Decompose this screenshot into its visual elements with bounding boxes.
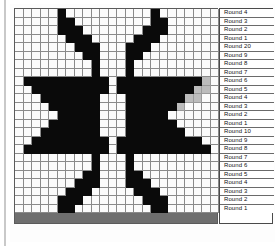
stitch-cell bbox=[126, 128, 135, 137]
stitch-cell bbox=[202, 188, 211, 197]
stitch-cell bbox=[194, 18, 203, 27]
stitch-cell bbox=[143, 111, 152, 120]
stitch-cell bbox=[92, 179, 101, 188]
stitch-cell bbox=[177, 52, 186, 61]
stitch-cell bbox=[202, 43, 211, 52]
stitch-cell bbox=[75, 35, 84, 44]
stitch-cell bbox=[24, 52, 33, 61]
stitch-cell bbox=[168, 196, 177, 205]
stitch-cell bbox=[75, 26, 84, 35]
stitch-cell bbox=[168, 18, 177, 27]
stitch-cell bbox=[32, 205, 41, 214]
stitch-cell bbox=[58, 35, 67, 44]
stitch-cell bbox=[58, 18, 67, 27]
stitch-cell bbox=[24, 69, 33, 78]
stitch-cell bbox=[211, 69, 220, 78]
stitch-cell bbox=[177, 154, 186, 163]
stitch-cell bbox=[126, 205, 135, 214]
stitch-cell bbox=[100, 205, 109, 214]
round-label: Round 7 bbox=[220, 154, 274, 163]
stitch-cell bbox=[211, 188, 220, 197]
stitch-cell bbox=[75, 43, 84, 52]
stitch-cell bbox=[32, 179, 41, 188]
stitch-cell bbox=[177, 94, 186, 103]
stitch-cell bbox=[168, 26, 177, 35]
stitch-cell bbox=[151, 35, 160, 44]
stitch-cell bbox=[41, 86, 50, 95]
stitch-cell bbox=[143, 9, 152, 18]
stitch-cell bbox=[41, 120, 50, 129]
stitch-cell bbox=[160, 60, 169, 69]
stitch-cell bbox=[109, 86, 118, 95]
stitch-cell bbox=[24, 35, 33, 44]
stitch-cell bbox=[185, 35, 194, 44]
stitch-cell bbox=[151, 205, 160, 214]
stitch-cell bbox=[109, 196, 118, 205]
stitch-cell bbox=[211, 179, 220, 188]
stitch-cell bbox=[194, 128, 203, 137]
stitch-cell bbox=[75, 162, 84, 171]
stitch-cell bbox=[143, 60, 152, 69]
stitch-cell bbox=[194, 9, 203, 18]
stitch-cell bbox=[211, 103, 220, 112]
stitch-cell bbox=[168, 43, 177, 52]
stitch-cell bbox=[75, 77, 84, 86]
stitch-cell bbox=[32, 120, 41, 129]
stitch-cell bbox=[194, 43, 203, 52]
stitch-cell bbox=[202, 60, 211, 69]
stitch-cell bbox=[177, 145, 186, 154]
stitch-cell bbox=[100, 103, 109, 112]
stitch-cell bbox=[100, 145, 109, 154]
stitch-cell bbox=[194, 111, 203, 120]
stitch-cell bbox=[92, 162, 101, 171]
stitch-cell bbox=[202, 205, 211, 214]
stitch-cell bbox=[15, 35, 24, 44]
stitch-cell bbox=[185, 188, 194, 197]
stitch-cell bbox=[92, 128, 101, 137]
round-label: Round 9 bbox=[220, 137, 274, 146]
stitch-cell bbox=[32, 18, 41, 27]
stitch-cell bbox=[75, 52, 84, 61]
stitch-cell bbox=[49, 43, 58, 52]
stitch-cell bbox=[126, 69, 135, 78]
stitch-cell bbox=[66, 103, 75, 112]
stitch-cell bbox=[134, 137, 143, 146]
stitch-cell bbox=[83, 111, 92, 120]
stitch-cell bbox=[92, 9, 101, 18]
stitch-cell bbox=[49, 111, 58, 120]
stitch-cell bbox=[66, 145, 75, 154]
stitch-cell bbox=[211, 94, 220, 103]
stitch-cell bbox=[177, 205, 186, 214]
stitch-cell bbox=[185, 94, 194, 103]
stitch-cell bbox=[177, 69, 186, 78]
stitch-cell bbox=[75, 111, 84, 120]
stitch-cell bbox=[117, 179, 126, 188]
stitch-cell bbox=[126, 196, 135, 205]
round-label: Round 20 bbox=[220, 43, 274, 52]
stitch-cell bbox=[109, 35, 118, 44]
stitch-cell bbox=[66, 9, 75, 18]
stitch-cell bbox=[109, 154, 118, 163]
stitch-cell bbox=[143, 171, 152, 180]
stitch-cell bbox=[58, 137, 67, 146]
stitch-cell bbox=[134, 171, 143, 180]
stitch-cell bbox=[177, 128, 186, 137]
stitch-cell bbox=[185, 77, 194, 86]
stitch-cell bbox=[32, 52, 41, 61]
stitch-cell bbox=[202, 103, 211, 112]
stitch-cell bbox=[83, 52, 92, 61]
round-label: Round 2 bbox=[220, 196, 274, 205]
stitch-cell bbox=[100, 188, 109, 197]
stitch-cell bbox=[117, 43, 126, 52]
stitch-cell bbox=[202, 171, 211, 180]
stitch-cell bbox=[100, 154, 109, 163]
stitch-cell bbox=[24, 94, 33, 103]
stitch-cell bbox=[109, 103, 118, 112]
stitch-cell bbox=[168, 111, 177, 120]
stitch-cell bbox=[160, 120, 169, 129]
stitch-cell bbox=[151, 60, 160, 69]
stitch-cell bbox=[41, 128, 50, 137]
stitch-cell bbox=[143, 145, 152, 154]
stitch-cell bbox=[194, 69, 203, 78]
stitch-cell bbox=[100, 69, 109, 78]
